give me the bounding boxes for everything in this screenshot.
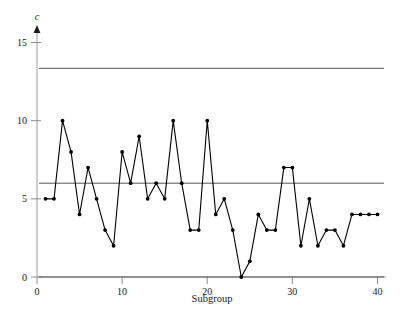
data-point bbox=[325, 228, 329, 232]
data-point bbox=[171, 119, 175, 123]
data-point bbox=[69, 150, 73, 154]
x-axis-title: Subgroup bbox=[192, 293, 233, 304]
data-point bbox=[290, 166, 294, 170]
data-point bbox=[188, 228, 192, 232]
x-tick-label: 10 bbox=[117, 286, 127, 297]
chart-canvas: 051015 010203040 Subgroup c bbox=[0, 0, 409, 315]
data-point bbox=[112, 244, 116, 248]
data-point bbox=[78, 213, 82, 217]
data-point bbox=[367, 213, 371, 217]
data-point bbox=[239, 275, 243, 279]
data-point bbox=[248, 259, 252, 263]
y-tick-label: 0 bbox=[22, 272, 27, 283]
data-point bbox=[273, 228, 277, 232]
data-point bbox=[256, 213, 260, 217]
data-point bbox=[146, 197, 150, 201]
x-tick-label: 30 bbox=[287, 286, 297, 297]
data-point bbox=[214, 213, 218, 217]
data-point bbox=[350, 213, 354, 217]
data-point bbox=[359, 213, 363, 217]
data-point bbox=[154, 181, 158, 185]
y-tick-label: 15 bbox=[17, 37, 27, 48]
data-point bbox=[299, 244, 303, 248]
c-control-chart: 051015 010203040 Subgroup c bbox=[0, 0, 409, 315]
data-point bbox=[205, 119, 209, 123]
data-point bbox=[95, 197, 99, 201]
data-point bbox=[282, 166, 286, 170]
y-tick-label: 5 bbox=[22, 193, 27, 204]
data-point bbox=[86, 166, 90, 170]
data-point bbox=[376, 213, 380, 217]
data-point bbox=[120, 150, 124, 154]
x-tick-label: 40 bbox=[372, 286, 382, 297]
data-point bbox=[197, 228, 201, 232]
data-point bbox=[316, 244, 320, 248]
data-point bbox=[222, 197, 226, 201]
data-point bbox=[307, 197, 311, 201]
y-axis-title: c bbox=[35, 11, 40, 22]
data-point bbox=[231, 228, 235, 232]
data-point bbox=[265, 228, 269, 232]
data-point bbox=[44, 197, 48, 201]
data-point bbox=[333, 228, 337, 232]
data-point bbox=[163, 197, 167, 201]
data-point bbox=[129, 181, 133, 185]
x-tick-label: 0 bbox=[35, 286, 40, 297]
data-point bbox=[61, 119, 65, 123]
data-point bbox=[103, 228, 107, 232]
data-point bbox=[180, 181, 184, 185]
data-point bbox=[342, 244, 346, 248]
data-point bbox=[137, 134, 141, 138]
y-tick-label: 10 bbox=[17, 115, 27, 126]
data-point bbox=[52, 197, 56, 201]
